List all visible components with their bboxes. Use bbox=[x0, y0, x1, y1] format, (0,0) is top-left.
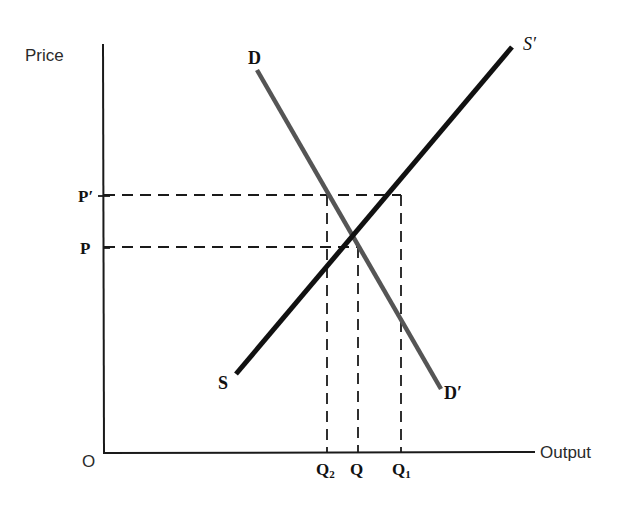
supply-demand-diagram: Price Output O P′ P Q2 Q Q1 D D′ S S′ bbox=[0, 0, 636, 506]
supply-end-label: S′ bbox=[523, 34, 537, 54]
supply-start-label: S bbox=[218, 373, 228, 393]
origin-label: O bbox=[82, 452, 95, 471]
q-label: Q bbox=[350, 460, 363, 479]
q1-label-sub: 1 bbox=[405, 468, 411, 480]
y-axis-label: Price bbox=[25, 46, 64, 65]
x-axis bbox=[103, 452, 535, 453]
supply-curve bbox=[236, 47, 512, 374]
p-label: P bbox=[80, 239, 90, 258]
y-axis bbox=[103, 44, 104, 454]
q1-label: Q1 bbox=[392, 460, 411, 480]
q2-label-main: Q bbox=[316, 460, 329, 479]
axes bbox=[103, 44, 535, 454]
q1-label-main: Q bbox=[392, 460, 405, 479]
demand-start-label: D bbox=[248, 48, 261, 68]
q2-label-sub: 2 bbox=[329, 468, 335, 480]
demand-end-label: D′ bbox=[444, 383, 462, 403]
p-prime-label: P′ bbox=[78, 187, 93, 206]
x-axis-label: Output bbox=[540, 443, 591, 462]
demand-curve bbox=[257, 70, 441, 389]
q2-label: Q2 bbox=[316, 460, 335, 480]
